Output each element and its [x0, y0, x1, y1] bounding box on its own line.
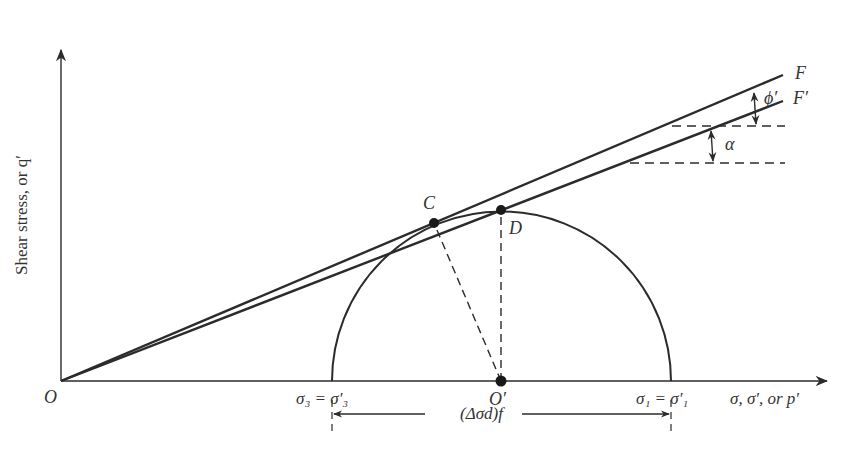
radius-to-c — [434, 223, 501, 381]
point-d — [496, 205, 506, 215]
failure-envelope-f — [61, 75, 783, 381]
deviator-stress-label: (Δσd)f — [460, 405, 503, 422]
y-axis-label: Shear stress, or q′ — [12, 155, 32, 275]
phi-angle-arrow — [754, 93, 756, 124]
sigma3-label: σ₃ = σ′₃ — [296, 390, 348, 407]
mohr-circle-diagram: Shear stress, or q′ O O′ C D F F′ ϕ′ α σ… — [0, 0, 859, 459]
alpha-angle-label: α — [725, 135, 734, 153]
sigma1-label: σ₁ = σ′₁ — [636, 390, 688, 407]
origin-label: O — [44, 388, 57, 406]
x-axis-label: σ, σ′, or p′ — [730, 390, 799, 407]
alpha-angle-arrow — [711, 131, 713, 161]
envelope-f-prime-label: F′ — [793, 89, 808, 107]
failure-envelope-f-prime — [61, 101, 783, 381]
point-d-label: D — [509, 219, 522, 237]
point-o-prime — [496, 376, 507, 387]
envelope-f-label: F — [795, 64, 806, 82]
phi-angle-label: ϕ′ — [764, 89, 777, 107]
point-c-label: C — [423, 194, 435, 212]
point-c — [429, 218, 439, 228]
